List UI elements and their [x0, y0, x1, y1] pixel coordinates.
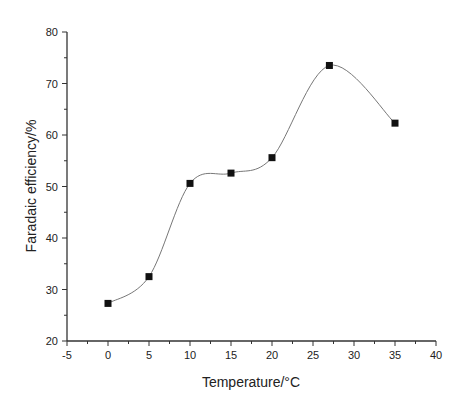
data-point-marker — [105, 300, 112, 307]
x-axis-title: Temperature/°C — [202, 374, 300, 390]
data-markers — [105, 62, 399, 307]
fit-curve — [108, 65, 395, 303]
x-tick-label: 15 — [225, 349, 237, 361]
data-point-marker — [187, 180, 194, 187]
data-point-marker — [146, 273, 153, 280]
y-tick-label: 20 — [46, 335, 58, 347]
x-tick-label: 35 — [389, 349, 401, 361]
axes: -5051015202530354020304050607080 — [46, 26, 442, 361]
y-tick-label: 40 — [46, 232, 58, 244]
x-tick-label: 20 — [266, 349, 278, 361]
data-point-marker — [228, 170, 235, 177]
y-axis-title: Faradaic efficiency/% — [23, 120, 39, 253]
x-tick-label: 40 — [430, 349, 442, 361]
y-tick-label: 60 — [46, 129, 58, 141]
data-point-marker — [269, 154, 276, 161]
x-tick-label: 5 — [146, 349, 152, 361]
x-tick-label: 25 — [307, 349, 319, 361]
x-tick-label: 30 — [348, 349, 360, 361]
y-tick-label: 80 — [46, 26, 58, 38]
data-point-marker — [326, 62, 333, 69]
spline-curve — [108, 65, 395, 303]
chart: -5051015202530354020304050607080 Tempera… — [0, 0, 465, 406]
y-tick-label: 30 — [46, 284, 58, 296]
y-tick-label: 50 — [46, 181, 58, 193]
x-tick-label: 0 — [105, 349, 111, 361]
x-tick-label: 10 — [184, 349, 196, 361]
x-tick-label: -5 — [62, 349, 72, 361]
data-point-marker — [392, 120, 399, 127]
y-tick-label: 70 — [46, 78, 58, 90]
